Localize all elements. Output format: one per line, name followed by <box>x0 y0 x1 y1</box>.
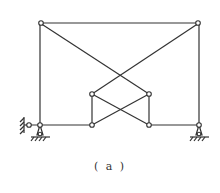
hinge-inner-bottom-right <box>147 123 152 128</box>
hinge-support-left <box>38 132 42 136</box>
hinge-inner-top-left <box>90 92 95 97</box>
hinge-top-left <box>39 21 44 26</box>
diagonal-top-right-to-inner-left <box>92 23 199 94</box>
figure-caption: ( a ) <box>0 160 220 173</box>
hinge-inner-top-right <box>147 92 152 97</box>
diagonal-top-left-to-inner-right <box>40 23 149 94</box>
hinge-support-right <box>197 132 201 136</box>
hinge-bottom-left <box>38 123 43 128</box>
hinge-inner-bottom-left <box>90 123 95 128</box>
hinge-top-right <box>196 21 201 26</box>
hinge-bottom-right <box>197 123 202 128</box>
hinge-wall <box>27 123 32 128</box>
